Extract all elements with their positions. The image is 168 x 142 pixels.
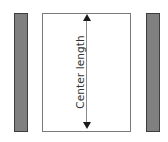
dimension-line (86, 20, 87, 122)
center-length-label: Center length (74, 35, 86, 108)
right-bar (146, 13, 160, 132)
arrow-down-icon (83, 122, 91, 129)
left-bar (14, 13, 28, 132)
arrow-up-icon (83, 14, 91, 21)
